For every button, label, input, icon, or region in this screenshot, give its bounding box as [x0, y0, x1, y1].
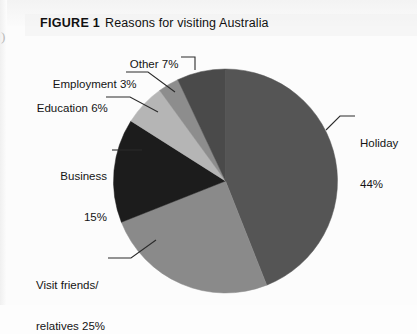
slice-label-visit-friends-line1: Visit friends/	[36, 279, 105, 293]
slice-label-business-line2: 15%	[41, 211, 107, 225]
slice-label-education-text: Education 6%	[37, 102, 108, 114]
slice-label-business-line1: Business	[41, 170, 107, 184]
slice-label-visit-friends-line2: relatives 25%	[36, 320, 105, 334]
pie-slice-group	[114, 69, 338, 293]
slice-label-other-text: Other 7%	[130, 58, 179, 70]
slice-label-holiday: Holiday 44%	[360, 110, 398, 218]
leader-line-other	[181, 57, 195, 70]
slice-label-holiday-line2: 44%	[360, 178, 398, 192]
slice-label-holiday-line1: Holiday	[360, 137, 398, 151]
leader-line-holiday	[326, 116, 355, 130]
slice-label-education: Education 6%	[24, 88, 108, 129]
slice-label-visit-friends: Visit friends/ relatives 25%	[36, 252, 105, 334]
slice-label-business: Business 15%	[41, 143, 107, 251]
